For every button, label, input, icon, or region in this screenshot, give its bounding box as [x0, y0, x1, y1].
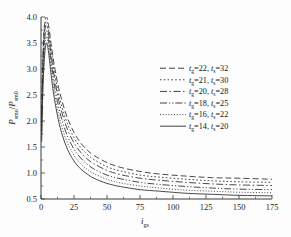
y-axis-title: Psmo/Psm0: [7, 91, 19, 126]
x-tick-labels: 0255075100125150175: [39, 202, 279, 212]
x-tick-label: 25: [70, 202, 79, 212]
legend-entry-label: tg=21, ts=30: [189, 76, 228, 86]
legend-entry-label: tg=16, ts=22: [189, 110, 228, 120]
data-curve: [42, 17, 272, 179]
y-tick-label: 2.0: [26, 116, 37, 126]
figure-container: 0255075100125150175 0.51.01.52.02.53.03.…: [0, 0, 291, 237]
x-tick-label: 0: [39, 202, 43, 212]
y-tick-label: 0.5: [26, 194, 37, 204]
data-curve: [42, 30, 272, 189]
legend-entry-label: tg=20, ts=28: [189, 87, 228, 97]
x-tick-label: 50: [103, 202, 112, 212]
x-tick-label: 125: [200, 202, 213, 212]
y-tick-label: 3.5: [26, 38, 37, 48]
x-tick-label: 175: [266, 202, 279, 212]
chart-legend: tg=22, ts=32tg=21, ts=30tg=20, ts=28tg=1…: [160, 64, 228, 132]
x-tick-label: 75: [136, 202, 145, 212]
y-tick-label: 3.0: [26, 64, 37, 74]
data-curve: [42, 37, 272, 193]
data-curve: [42, 21, 272, 182]
data-curve: [42, 43, 272, 196]
y-tick-label: 4.0: [26, 12, 37, 22]
legend-entry-label: tg=18, ts=25: [189, 99, 228, 109]
y-tick-labels: 0.51.01.52.02.53.03.54.0: [26, 12, 37, 204]
chart-plot: 0255075100125150175 0.51.01.52.02.53.03.…: [0, 0, 291, 237]
x-tick-label: 150: [233, 202, 246, 212]
x-axis-title: igs: [141, 216, 150, 228]
data-curve: [42, 25, 272, 186]
y-tick-label: 1.0: [26, 168, 37, 178]
plot-frame: [41, 17, 272, 199]
x-tick-label: 100: [167, 202, 180, 212]
legend-entry-label: tg=22, ts=32: [189, 64, 228, 74]
legend-entry-label: tg=14, ts=20: [189, 122, 228, 132]
y-tick-label: 1.5: [26, 142, 37, 152]
y-tick-label: 2.5: [26, 90, 37, 100]
data-series-group: [42, 17, 272, 196]
